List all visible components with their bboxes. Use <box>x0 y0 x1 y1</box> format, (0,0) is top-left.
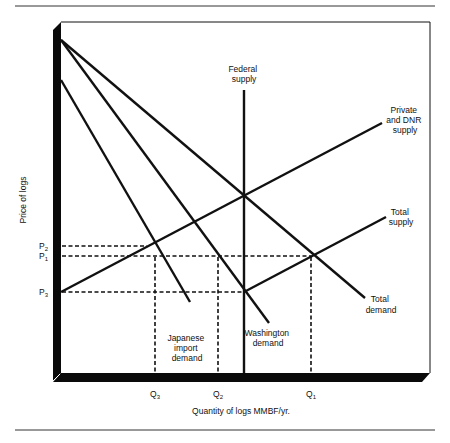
x-axis <box>53 373 430 382</box>
washington-demand-label: Washington demand <box>245 328 292 348</box>
y-tick-p3: P3 <box>39 287 49 298</box>
y-tick-p1: P1 <box>39 251 49 262</box>
x-tick-q1: Q1 <box>306 389 317 400</box>
private-dnr-supply-label: Private and DNR supply <box>386 105 423 135</box>
economics-diagram: Federal supply Private and DNR supply To… <box>0 0 450 443</box>
total-supply-label: Total supply <box>389 207 414 227</box>
federal-supply-label: Federal supply <box>228 64 259 84</box>
y-axis <box>53 22 61 381</box>
private-dnr-supply-curve <box>61 123 382 292</box>
x-tick-q2: Q2 <box>213 389 224 400</box>
y-axis-title: Price of logs <box>18 177 28 224</box>
x-axis-title: Quantity of logs MMBF/yr. <box>192 406 290 416</box>
x-tick-q3: Q3 <box>150 389 161 400</box>
japanese-import-demand-label: Japanese import demand <box>167 333 206 363</box>
total-demand-curve <box>61 40 365 298</box>
total-demand-label: Total demand <box>366 294 397 315</box>
curves <box>61 40 386 373</box>
